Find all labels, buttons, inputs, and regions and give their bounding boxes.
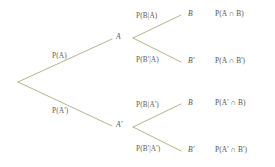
- branch-label-p-bnot-given-anot: P(B'|A'): [136, 145, 160, 152]
- tree-branch-lines: [0, 0, 275, 167]
- branch-label-p-a-not: P(A'): [52, 107, 68, 114]
- outcome-label-anot-and-bnot: P(A' ∩ B'): [215, 146, 247, 153]
- node-label-bnot-1: B': [188, 57, 194, 65]
- node-label-b-1: B: [188, 10, 193, 18]
- node-label-bnot-2: B': [188, 146, 194, 154]
- node-label-a-not: A': [116, 121, 122, 129]
- outcome-label-a-and-bnot: P(A ∩ B'): [215, 57, 245, 64]
- branch-label-p-bnot-given-a: P(B'|A): [136, 56, 159, 63]
- branch-root-to-a: [18, 39, 112, 82]
- node-label-a: A: [116, 33, 121, 41]
- branch-root-to-anot: [18, 82, 112, 126]
- probability-tree-diagram: P(A) P(A') A A' P(B|A) P(B'|A) P(B|A') P…: [0, 0, 275, 167]
- branch-label-p-b-given-a: P(B|A): [136, 12, 157, 19]
- branch-label-p-b-given-anot: P(B|A'): [136, 101, 159, 108]
- outcome-label-anot-and-b: P(A' ∩ B): [215, 99, 246, 106]
- node-label-b-2: B: [188, 99, 193, 107]
- outcome-label-a-and-b: P(A ∩ B): [215, 10, 244, 17]
- branch-label-p-a: P(A): [52, 52, 67, 59]
